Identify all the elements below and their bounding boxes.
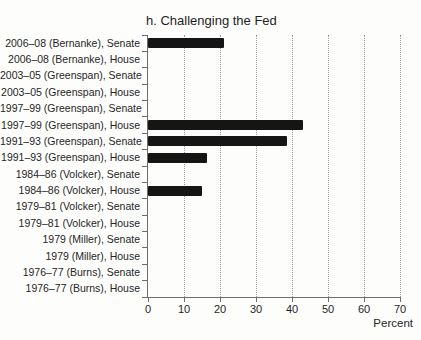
plot-area (147, 35, 400, 298)
y-axis-tick (142, 67, 148, 68)
y-axis-tick (142, 215, 148, 216)
category-label: 1991–93 (Greenspan), Senate (0, 135, 140, 148)
gridline (328, 35, 329, 297)
y-axis-tick (142, 182, 148, 183)
y-axis-tick (142, 231, 148, 232)
y-axis-tick (142, 247, 148, 248)
y-axis-tick (142, 149, 148, 150)
y-axis-tick (142, 297, 148, 298)
bar-chart-figure: h. Challenging the Fed 2006–08 (Bernanke… (0, 0, 421, 340)
y-axis-tick (142, 84, 148, 85)
bar (148, 38, 224, 48)
category-label: 1979–81 (Volcker), Senate (0, 200, 140, 213)
x-tick-label: 0 (145, 303, 151, 315)
category-label: 1991–93 (Greenspan), House (0, 151, 140, 164)
y-axis-tick (142, 280, 148, 281)
x-axis-tick (184, 297, 185, 302)
x-tick-label: 60 (358, 303, 370, 315)
chart-title: h. Challenging the Fed (146, 13, 277, 28)
category-label: 1997–99 (Greenspan), House (0, 119, 140, 132)
category-label: 1997–99 (Greenspan), Senate (0, 102, 140, 115)
y-axis-tick (142, 264, 148, 265)
x-tick-label: 20 (214, 303, 226, 315)
y-axis-tick (142, 100, 148, 101)
x-tick-label: 70 (394, 303, 406, 315)
y-axis-tick (142, 51, 148, 52)
category-label: 1976–77 (Burns), Senate (0, 266, 140, 279)
x-tick-label: 40 (286, 303, 298, 315)
category-label: 1984–86 (Volcker), House (0, 184, 140, 197)
category-label: 1979 (Miller), Senate (0, 233, 140, 246)
y-axis-tick (142, 198, 148, 199)
x-axis-tick (292, 297, 293, 302)
gridline (400, 35, 401, 297)
bar (148, 136, 287, 146)
gridline (292, 35, 293, 297)
gridline (220, 35, 221, 297)
gridline (184, 35, 185, 297)
category-label: 2003–05 (Greenspan), House (0, 86, 140, 99)
bar (148, 186, 202, 196)
category-label: 1979–81 (Volcker), House (0, 217, 140, 230)
y-axis-tick (142, 116, 148, 117)
x-tick-label: 30 (250, 303, 262, 315)
x-tick-label: 10 (178, 303, 190, 315)
x-axis-tick (364, 297, 365, 302)
gridline (256, 35, 257, 297)
category-label: 1984–86 (Volcker), Senate (0, 168, 140, 181)
category-label: 2006–08 (Bernanke), House (0, 53, 140, 66)
category-label: 1979 (Miller), House (0, 250, 140, 263)
y-axis-tick (142, 133, 148, 134)
y-axis-tick (142, 166, 148, 167)
x-axis-tick (256, 297, 257, 302)
category-label: 2003–05 (Greenspan), Senate (0, 69, 140, 82)
x-axis-tick (400, 297, 401, 302)
gridline (364, 35, 365, 297)
x-axis-tick (328, 297, 329, 302)
x-axis-tick (220, 297, 221, 302)
bar (148, 120, 303, 130)
category-label: 2006–08 (Bernanke), Senate (0, 37, 140, 50)
category-label: 1976–77 (Burns), House (0, 282, 140, 295)
x-axis-tick (148, 297, 149, 302)
x-tick-label: 50 (322, 303, 334, 315)
x-axis-title: Percent (373, 317, 413, 329)
y-axis-tick (142, 35, 148, 36)
bar (148, 153, 207, 163)
